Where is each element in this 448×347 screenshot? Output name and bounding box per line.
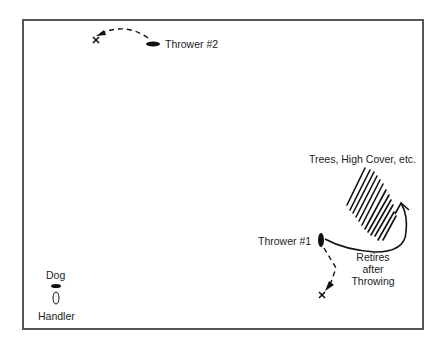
diagram-canvas [0,0,448,347]
thrower1-marker [318,233,324,247]
thrower2-marker [146,41,160,46]
thrower2-label: Thrower #2 [165,38,218,50]
fall2-x-mark [93,37,99,43]
retires-line2: after [348,263,398,275]
retires-label: Retires after Throwing [348,251,398,287]
handler-marker [53,292,59,304]
dog-marker [51,284,61,288]
handler-label: Handler [38,310,75,322]
throw1-arrowhead [325,281,334,291]
retires-line1: Retires [348,251,398,263]
throw2-arrowhead [96,30,106,36]
fall1-x-mark [319,292,325,298]
cover-label: Trees, High Cover, etc. [309,153,416,165]
throw2-dashed-arc [100,29,148,38]
retires-line3: Throwing [348,275,398,287]
retire-arrowhead [395,203,409,214]
cover-hatching [347,168,396,240]
throw1-dashed-line [324,248,336,285]
dog-label: Dog [46,269,65,281]
thrower1-label: Thrower #1 [258,235,311,247]
